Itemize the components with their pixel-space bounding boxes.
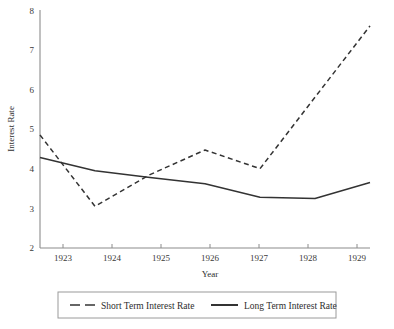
y-tick-label: 7 [30, 45, 35, 55]
x-tick-label: 1923 [54, 253, 73, 263]
plot-area [40, 10, 370, 248]
x-tick-label: 1927 [250, 253, 269, 263]
line-chart: 8 7 6 5 4 3 2 1923 1924 1925 1926 1927 1… [0, 0, 394, 329]
x-tick-labels: 1923 1924 1925 1926 1927 1928 1929 [54, 253, 367, 263]
x-tick-label: 1924 [103, 253, 122, 263]
x-tick-label: 1926 [201, 253, 220, 263]
y-tick-label: 8 [30, 6, 35, 16]
y-tick-label: 6 [30, 85, 35, 95]
y-tick-label: 4 [30, 164, 35, 174]
x-tick-label: 1928 [299, 253, 318, 263]
x-tick-label: 1929 [348, 253, 367, 263]
y-tick-labels: 8 7 6 5 4 3 2 [30, 6, 35, 254]
y-tick-label: 3 [30, 204, 35, 214]
y-tick-label: 5 [30, 124, 35, 134]
x-axis-title: Year [202, 269, 219, 279]
legend-label-long-term: Long Term Interest Rate [244, 301, 337, 311]
chart-figure: 8 7 6 5 4 3 2 1923 1924 1925 1926 1927 1… [0, 0, 394, 329]
chart-legend: Short Term Interest Rate Long Term Inter… [58, 292, 337, 318]
x-tick-label: 1925 [152, 253, 171, 263]
y-tick-label: 2 [30, 243, 35, 253]
legend-label-short-term: Short Term Interest Rate [101, 301, 194, 311]
y-axis-title: Interest Rate [6, 106, 16, 152]
